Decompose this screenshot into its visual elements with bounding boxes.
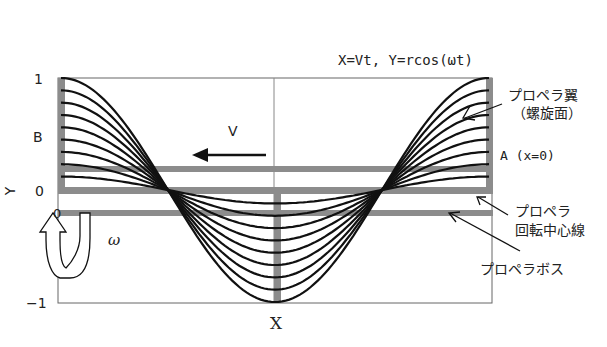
- blade-label-line2: （螺旋面）: [512, 106, 582, 120]
- blade-label-line1: プロペラ翼: [508, 88, 578, 102]
- x-axis-label: X: [270, 315, 282, 332]
- axis-label-line1: プロペラ: [515, 204, 571, 218]
- V-label: V: [228, 124, 238, 138]
- propeller-bars: [58, 78, 493, 303]
- equation-label: X=Vt, Y=rcos(ωt): [338, 53, 473, 67]
- propeller-helix-diagram: X=Vt, Y=rcos(ωt) 1 0 −1 0 Y X B A (x=0) …: [0, 0, 607, 347]
- y-tick-1: 1: [34, 72, 43, 86]
- axis-label-line2: 回転中心線: [515, 223, 585, 237]
- B-label: B: [33, 130, 43, 144]
- rotation-arrow-icon: [40, 213, 90, 278]
- y-axis-label: Y: [3, 187, 17, 196]
- y-tick-0: 0: [35, 184, 44, 198]
- y-tick-minus1: −1: [26, 296, 47, 310]
- origin-zero-label: 0: [53, 207, 61, 220]
- plot-area: [0, 0, 607, 347]
- velocity-arrow: [192, 148, 266, 162]
- omega-label: ω: [108, 233, 120, 248]
- A-label: A (x=0): [500, 149, 555, 162]
- boss-label: プロペラボス: [480, 262, 564, 276]
